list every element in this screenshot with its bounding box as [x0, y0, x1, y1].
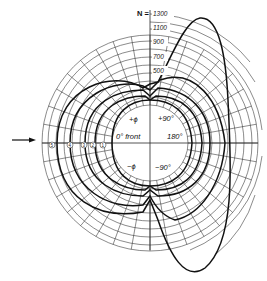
tick-700: 700 [153, 53, 164, 60]
label-180: 180° [167, 132, 183, 141]
label-phi-minus: −ϕ [127, 162, 136, 171]
tick-900: 900 [153, 38, 164, 45]
label-plus-90: +90° [158, 114, 174, 123]
tick-1100: 1100 [153, 24, 167, 31]
polar-diagram: 5 4 3 2 1 N = 1300 1100 900 700 500 +90°… [0, 0, 267, 281]
label-front: 0° front [116, 132, 141, 141]
label-minus-90: −90° [155, 163, 171, 172]
incident-direction-arrow [12, 138, 36, 143]
tick-500: 500 [153, 67, 164, 74]
label-phi-plus: +ϕ [129, 115, 138, 124]
scale-label: N = [137, 9, 150, 18]
tick-1300: 1300 [153, 10, 168, 17]
